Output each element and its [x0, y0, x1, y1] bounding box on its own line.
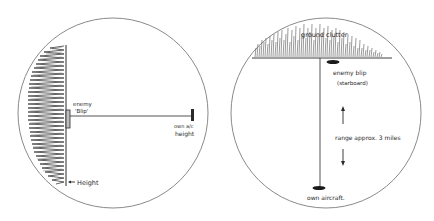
enemy-blip-label: enemy	[73, 101, 93, 108]
enemy-blip-starboard-label: (starboard)	[337, 80, 368, 86]
enemy-blip-label-2: 'Blip'	[75, 108, 88, 115]
ground-clutter-label: ground clutter	[301, 31, 348, 39]
range-down-arrow-icon	[341, 149, 345, 166]
right-scope-circle	[231, 18, 421, 208]
own-ac-height-label: own a/c	[174, 123, 194, 129]
right-radar-scope: ground clutter enemy blip (starboard) ra…	[231, 18, 421, 208]
own-aircraft-icon	[313, 186, 326, 190]
own-ac-height-marker-icon	[191, 109, 194, 121]
enemy-blip-marker-icon	[66, 110, 70, 128]
own-aircraft-label: own aircraft.	[307, 194, 345, 201]
radar-diagrams: enemy 'Blip' own a/c height Height groun…	[0, 0, 434, 221]
range-label: range approx. 3 miles	[335, 134, 401, 142]
range-up-arrow-icon	[341, 106, 345, 124]
enemy-blip-label: enemy blip	[333, 69, 367, 77]
height-label: Height	[77, 179, 99, 187]
height-arrow-icon	[68, 181, 75, 184]
own-ac-height-label-2: height	[175, 130, 195, 138]
left-ground-return-icon	[28, 46, 64, 184]
enemy-blip-icon	[327, 60, 340, 64]
ground-clutter-icon	[255, 24, 382, 57]
left-radar-scope: enemy 'Blip' own a/c height Height	[18, 18, 208, 208]
